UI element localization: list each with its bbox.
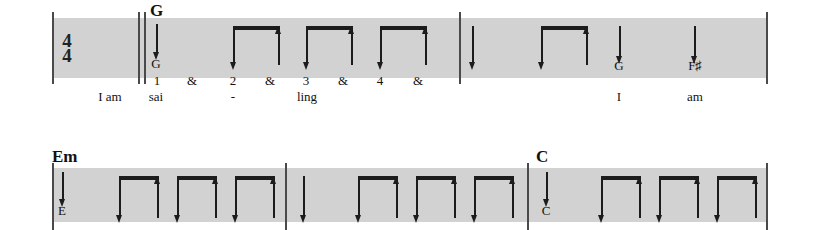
count-2: 2 bbox=[224, 74, 242, 87]
barline-middle-2b bbox=[527, 163, 529, 230]
chord-symbol-c: C bbox=[536, 148, 548, 165]
lyric-sai: sai bbox=[141, 90, 171, 103]
beam-m3-2 bbox=[177, 176, 217, 180]
barline-opening-1 bbox=[52, 12, 54, 84]
beam-m4-3 bbox=[474, 176, 514, 180]
bass-note-c: C bbox=[536, 204, 556, 217]
barline-opening-2 bbox=[52, 163, 54, 230]
double-barline bbox=[138, 12, 146, 84]
chord-symbol-g: G bbox=[150, 2, 163, 19]
beam-beat2 bbox=[233, 26, 280, 30]
lyric-ling: ling bbox=[291, 90, 323, 103]
time-signature-denominator: 4 bbox=[56, 48, 78, 63]
beam-beat4 bbox=[380, 26, 427, 30]
beam-m3-3 bbox=[235, 176, 275, 180]
count-and-1: & bbox=[183, 74, 201, 87]
time-signature: 4 4 bbox=[56, 33, 78, 63]
beam-m4-2 bbox=[416, 176, 456, 180]
count-4: 4 bbox=[371, 74, 389, 87]
barline-middle-1 bbox=[459, 12, 461, 84]
count-and-2: & bbox=[261, 74, 279, 87]
beam-m5-1 bbox=[601, 176, 641, 180]
beam-m4-1 bbox=[358, 176, 398, 180]
bass-note-g-2: G bbox=[609, 59, 629, 72]
bass-note-e: E bbox=[52, 204, 72, 217]
count-and-3: & bbox=[334, 74, 352, 87]
count-1: 1 bbox=[148, 74, 166, 87]
lyric-dash: - bbox=[224, 90, 242, 103]
bass-note-g-1: G bbox=[146, 57, 166, 70]
beam-m2 bbox=[541, 26, 588, 30]
beam-m5-3 bbox=[717, 176, 757, 180]
lyric-pickup: I am bbox=[80, 90, 140, 103]
lyric-am: am bbox=[682, 90, 708, 103]
barline-end-2 bbox=[766, 163, 768, 230]
barline-end-1 bbox=[766, 12, 768, 84]
sheet-music-page: 4 4 I am G G bbox=[0, 0, 814, 230]
count-and-4: & bbox=[409, 74, 427, 87]
barline-middle-2a bbox=[285, 163, 287, 230]
beam-beat3 bbox=[306, 26, 353, 30]
beam-m5-2 bbox=[659, 176, 699, 180]
lyric-i: I bbox=[611, 90, 627, 103]
count-3: 3 bbox=[297, 74, 315, 87]
bass-note-fsharp: F♯ bbox=[682, 59, 708, 72]
beam-m3-1 bbox=[119, 176, 159, 180]
chord-symbol-em: Em bbox=[52, 148, 78, 165]
